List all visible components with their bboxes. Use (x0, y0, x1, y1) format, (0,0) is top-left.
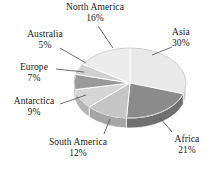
pie-label-north-america-name: North America (66, 2, 124, 12)
pie-label-south-america-name: South America (49, 137, 107, 147)
pie-label-antarctica-percent: 9% (1, 107, 67, 118)
pie-label-australia-percent: 5% (14, 40, 76, 51)
pie-chart: North America 16% Asia 30% Australia 5% … (0, 0, 220, 175)
pie-label-africa-percent: 21% (162, 145, 212, 156)
leader-line-australia (60, 48, 86, 63)
pie-label-north-america-percent: 16% (52, 13, 138, 24)
pie-label-australia: Australia 5% (14, 29, 76, 50)
pie-label-australia-name: Australia (27, 29, 63, 39)
pie-label-south-america-percent: 12% (36, 148, 120, 159)
leader-line-north-america (98, 26, 113, 48)
pie-label-africa-name: Africa (175, 134, 200, 144)
pie-label-europe-name: Europe (20, 62, 48, 72)
pie-label-asia: Asia 30% (172, 27, 216, 48)
pie-label-asia-percent: 30% (172, 38, 216, 49)
pie-label-africa: Africa 21% (162, 134, 212, 155)
pie-label-asia-name: Asia (172, 27, 190, 37)
pie-label-europe-percent: 7% (6, 73, 62, 84)
pie-label-south-america: South America 12% (36, 137, 120, 158)
pie-slice-tops (74, 48, 186, 118)
pie-label-antarctica: Antarctica 9% (1, 96, 67, 117)
pie-label-north-america: North America 16% (52, 2, 138, 23)
pie-label-antarctica-name: Antarctica (14, 96, 55, 106)
pie-label-europe: Europe 7% (6, 62, 62, 83)
